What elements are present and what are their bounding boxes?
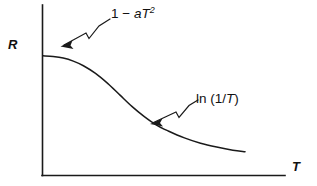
annotation-0-italic-T: T [141,6,149,21]
annotation-leader-1-group [150,100,198,127]
annotation-1-prefix: ln (1/ [196,91,226,106]
chart-svg [0,0,317,186]
annotation-1-suffix: ) [234,91,239,106]
annotation-leader-0-group [61,19,111,49]
annotation-label-high-temperature: ln (1/T) [196,92,239,106]
annotation-leader-1-zigzag [154,100,199,123]
figure-canvas: R T 1 − aT2 ln (1/T) [0,0,317,186]
annotation-arrowhead-0 [61,41,74,50]
annotation-0-prefix: 1 − [111,6,134,21]
annotation-leader-0-zigzag [64,19,110,45]
annotation-0-superscript: 2 [150,5,155,15]
y-axis-label: R [8,38,17,51]
annotation-label-low-temperature: 1 − aT2 [111,7,155,21]
x-axis-label: T [292,160,300,173]
axes-group [42,5,285,176]
